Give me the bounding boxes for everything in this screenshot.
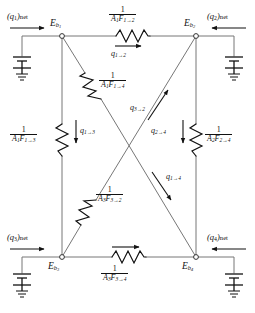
- resistor-R34-zigzag: [112, 251, 146, 263]
- node-dot-Eb2: [194, 34, 199, 39]
- radiation-network-diagram: Eb1 Eb2 Eb3 Eb4 (q1)net (q2)net (q3)net …: [0, 0, 255, 313]
- battery-ground-1: [13, 57, 31, 80]
- resistor-label-R24: 1 A2F2→4: [205, 126, 232, 144]
- battery-ground-4: [225, 274, 243, 297]
- current-label-q24: q2→4: [151, 127, 166, 136]
- resistor-label-R13: 1 A1F1→3: [10, 126, 37, 144]
- node-label-Eb4: Eb4: [182, 262, 193, 273]
- node-dot-Eb1: [60, 34, 65, 39]
- node-label-Eb1: Eb1: [50, 19, 61, 30]
- current-label-q13: q1→3: [80, 127, 95, 136]
- wire-source2: [196, 36, 234, 56]
- resistor-label-R34: 1 A3F3→4: [101, 265, 128, 283]
- resistor-label-R14: 1 A1F1→4: [99, 72, 126, 90]
- wire-diag14-upper: [62, 36, 85, 73]
- wire-diag32-lower: [62, 225, 81, 257]
- source-label-q2net: (q2)net: [207, 12, 228, 22]
- resistor-R32-zigzag: [76, 200, 96, 225]
- source-label-q4net: (q4)net: [207, 233, 228, 243]
- battery-ground-2: [225, 57, 243, 80]
- battery-ground-3: [13, 274, 31, 297]
- current-label-q12: q1→2: [111, 50, 126, 59]
- resistor-R24-zigzag: [190, 124, 202, 156]
- source-label-q1net: (q1)net: [7, 12, 28, 22]
- resistor-label-R12: 1 A1F1→2: [109, 6, 136, 24]
- resistor-R14-zigzag: [80, 73, 101, 99]
- resistor-label-R32: 1 A3F3→2: [96, 186, 123, 204]
- arrow-q32: [148, 90, 168, 120]
- node-dot-Eb3: [60, 255, 65, 260]
- source-label-q3net: (q3)net: [7, 233, 28, 243]
- wire-diag32-upper: [96, 36, 196, 200]
- wire-source1: [22, 36, 62, 56]
- resistor-R13-zigzag: [56, 124, 68, 156]
- current-label-q32: q3→2: [130, 104, 145, 113]
- wire-diag14-lower: [101, 99, 196, 257]
- resistor-R12-zigzag: [116, 30, 150, 42]
- wire-source4: [196, 257, 234, 273]
- node-dot-Eb4: [194, 255, 199, 260]
- node-label-Eb2: Eb2: [184, 19, 195, 30]
- node-label-Eb3: Eb3: [48, 262, 59, 273]
- current-label-q14: q1→4: [166, 173, 181, 182]
